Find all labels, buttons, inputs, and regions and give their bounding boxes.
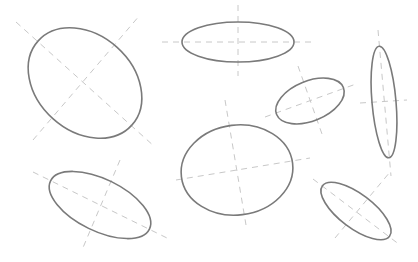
ellipse-4	[367, 45, 401, 159]
ellipse-7	[312, 172, 400, 250]
ellipse-6	[39, 158, 161, 253]
ellipse-1-axis-major	[16, 22, 155, 147]
ellipse-1-axis-minor	[33, 15, 140, 140]
ellipse-diagram	[0, 0, 418, 262]
ellipses-layer	[6, 5, 401, 252]
ellipse-7-axis-minor	[335, 172, 390, 238]
ellipse-5-axis-major	[176, 158, 310, 180]
axis-lines-layer	[16, 5, 407, 250]
ellipse-4-axis-minor	[360, 100, 407, 103]
ellipse-1	[6, 5, 164, 161]
ellipse-5-axis-minor	[225, 100, 246, 225]
ellipse-6-axis-major	[33, 172, 167, 238]
